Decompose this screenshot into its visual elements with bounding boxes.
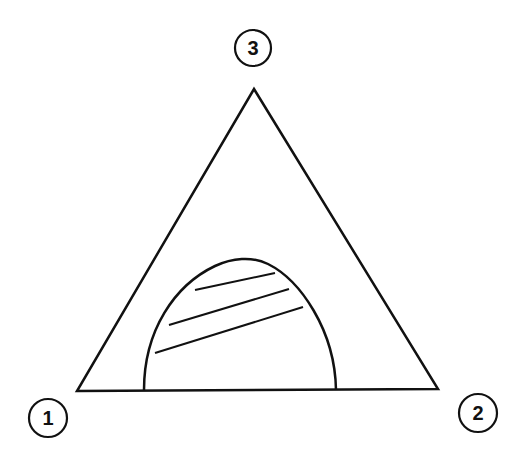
vertex-label-1: 1 [29, 399, 67, 437]
vertex-1-text: 1 [42, 407, 53, 429]
ternary-diagram: 3 1 2 [0, 0, 529, 469]
ternary-triangle [77, 89, 438, 391]
vertex-label-2: 2 [459, 394, 497, 432]
tie-line-3 [155, 307, 303, 353]
vertex-label-3: 3 [235, 30, 271, 66]
vertex-2-text: 2 [472, 402, 483, 424]
tie-line-1 [195, 273, 275, 290]
tie-line-2 [169, 289, 289, 325]
vertex-3-text: 3 [247, 37, 258, 59]
